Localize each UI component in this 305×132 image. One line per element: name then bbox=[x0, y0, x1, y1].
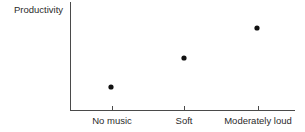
data-point bbox=[254, 25, 259, 30]
data-point bbox=[108, 84, 113, 89]
x-tick-label-no-music: No music bbox=[92, 116, 132, 126]
x-tick-label-moderately-loud: Moderately loud bbox=[224, 116, 292, 126]
x-tick-label-soft: Soft bbox=[176, 116, 193, 126]
y-axis-label: Productivity bbox=[14, 5, 63, 15]
scatter-plot-figure: Productivity No music Soft Moderately lo… bbox=[0, 0, 305, 132]
data-point bbox=[181, 55, 186, 60]
plot-area bbox=[0, 0, 305, 132]
